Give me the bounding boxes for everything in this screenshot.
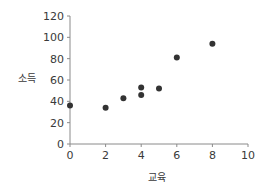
y-tick-label: 20 <box>50 117 64 130</box>
data-point <box>120 95 126 101</box>
scatter-chart: 020406080100120 0246810 소득 교육 <box>0 0 267 196</box>
x-tick-label: 0 <box>67 149 74 162</box>
y-axis: 020406080100120 <box>43 10 70 151</box>
data-point <box>138 92 144 98</box>
x-tick-label: 6 <box>173 149 180 162</box>
data-point <box>209 41 215 47</box>
data-point <box>174 55 180 61</box>
y-tick-label: 120 <box>43 10 64 23</box>
data-points <box>67 41 215 111</box>
data-point <box>67 103 73 109</box>
y-tick-label: 60 <box>50 74 64 87</box>
x-axis: 0246810 <box>67 144 256 162</box>
y-tick-label: 0 <box>57 138 64 151</box>
x-tick-label: 4 <box>138 149 145 162</box>
data-point <box>103 105 109 111</box>
y-axis-title: 소득 <box>18 73 36 84</box>
y-tick-label: 100 <box>43 31 64 44</box>
y-tick-label: 80 <box>50 53 64 66</box>
data-point <box>138 84 144 90</box>
y-tick-label: 40 <box>50 95 64 108</box>
x-tick-label: 8 <box>209 149 216 162</box>
x-tick-label: 10 <box>241 149 255 162</box>
data-point <box>156 86 162 92</box>
x-axis-title: 교육 <box>148 172 166 183</box>
x-tick-label: 2 <box>102 149 109 162</box>
